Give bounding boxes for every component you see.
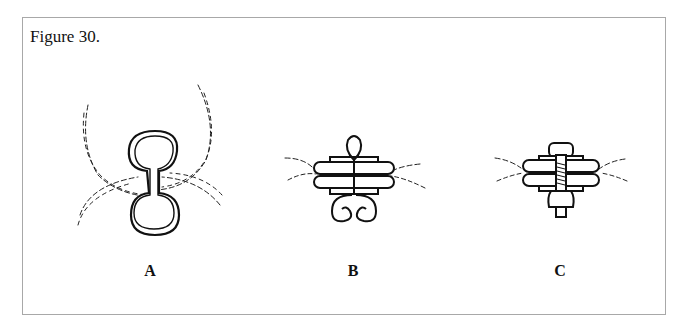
panel-b-illustration xyxy=(280,100,430,210)
panel-c-illustration xyxy=(485,125,635,225)
panel-b-label: B xyxy=(338,262,368,280)
panel-c-label: C xyxy=(545,262,575,280)
figure-title: Figure 30. xyxy=(30,27,100,47)
panel-a-label: A xyxy=(135,262,165,280)
panel-a-illustration xyxy=(70,85,240,255)
